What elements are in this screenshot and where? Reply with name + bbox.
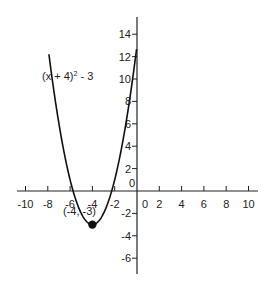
x-tick-label: 2 bbox=[156, 198, 162, 210]
y-tick-label: 4 bbox=[125, 140, 131, 152]
y-tick-label: 10 bbox=[119, 73, 131, 85]
vertex-label: (-4, -3) bbox=[63, 205, 96, 217]
x-tick-label: 10 bbox=[242, 198, 254, 210]
axes: -10-8-6-4-20246810-6-4-202468101214 bbox=[17, 17, 258, 274]
y-tick-label: -2 bbox=[121, 207, 131, 219]
y-tick-label: -4 bbox=[121, 230, 131, 242]
x-tick-label: 0 bbox=[142, 198, 148, 210]
x-tick-label: 6 bbox=[201, 198, 207, 210]
function-label: (x + 4)2 - 3 bbox=[42, 70, 93, 82]
x-tick-label: -10 bbox=[18, 198, 34, 210]
x-tick-label: -2 bbox=[110, 198, 120, 210]
y-tick-label: -6 bbox=[121, 252, 131, 264]
x-tick-label: -8 bbox=[43, 198, 53, 210]
vertex-point bbox=[88, 220, 96, 228]
x-tick-label: 4 bbox=[179, 198, 185, 210]
vertex-dot bbox=[88, 220, 96, 228]
y-tick-label: 0 bbox=[129, 177, 135, 189]
y-tick-label: 14 bbox=[119, 28, 131, 40]
x-tick-label: 8 bbox=[223, 198, 229, 210]
y-tick-label: 2 bbox=[125, 163, 131, 175]
y-tick-label: 12 bbox=[119, 51, 131, 63]
parabola-chart: -10-8-6-4-20246810-6-4-202468101214 (x +… bbox=[0, 0, 271, 288]
